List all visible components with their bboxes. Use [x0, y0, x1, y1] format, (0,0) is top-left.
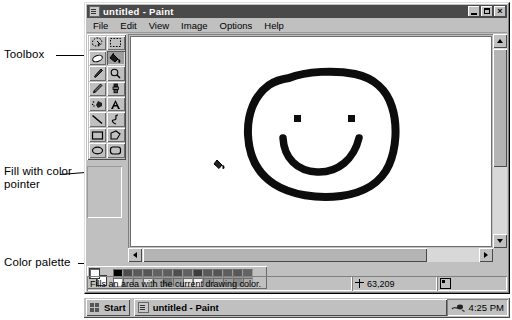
status-hint: Fills an area with the current drawing c… — [87, 276, 352, 291]
ellipse-icon — [91, 145, 104, 156]
annotation-color-palette: Color palette — [4, 256, 71, 269]
menu-view[interactable]: View — [143, 20, 175, 32]
chevron-down-icon — [497, 239, 503, 243]
scroll-left-button[interactable] — [128, 248, 142, 262]
tray-clock[interactable]: 4:25 PM — [469, 302, 504, 313]
crosshair-icon — [355, 279, 364, 288]
paint-window: untitled - Paint × File Edit View Image … — [84, 2, 510, 294]
status-coordinates: 63,209 — [352, 276, 437, 291]
chevron-up-icon — [497, 39, 503, 43]
rectangle-tool[interactable] — [89, 128, 107, 142]
system-tray: 4:25 PM — [447, 299, 508, 316]
start-label: Start — [104, 302, 126, 313]
paint-app-icon — [89, 6, 100, 17]
magnifier-icon — [109, 68, 122, 79]
taskbar-item-paint[interactable]: untitled - Paint — [134, 299, 447, 316]
menu-bar: File Edit View Image Options Help — [87, 19, 507, 33]
polygon-icon — [109, 130, 122, 141]
ellipse-tool[interactable] — [89, 143, 107, 157]
canvas-vertical-scrollbar[interactable] — [493, 34, 507, 248]
selection-size-icon — [440, 278, 451, 289]
rectangle-select-tool[interactable] — [107, 36, 125, 50]
text-a-icon — [109, 99, 122, 110]
menu-options[interactable]: Options — [214, 20, 259, 32]
annotation-fill-pointer: Fill with color pointer — [4, 165, 72, 191]
windows-logo-icon — [90, 303, 101, 313]
pencil-tool[interactable] — [89, 82, 107, 96]
chevron-left-icon — [133, 252, 137, 258]
status-bar: Fills an area with the current drawing c… — [87, 276, 507, 291]
tool-options-panel[interactable] — [87, 166, 122, 218]
menu-file[interactable]: File — [87, 20, 114, 32]
window-controls: × — [468, 6, 506, 17]
drawing-canvas[interactable] — [130, 36, 492, 247]
chevron-right-icon — [484, 252, 488, 258]
annotation-toolbox: Toolbox — [4, 48, 44, 61]
title-bar[interactable]: untitled - Paint × — [87, 5, 507, 18]
pencil-icon — [91, 83, 104, 94]
toolbox — [87, 34, 126, 224]
window-title: untitled - Paint — [103, 6, 468, 17]
eraser-tool[interactable] — [89, 51, 107, 65]
menu-edit[interactable]: Edit — [114, 20, 142, 32]
rounded-rectangle-icon — [109, 145, 122, 156]
text-tool[interactable] — [107, 97, 125, 111]
rectangle-icon — [91, 130, 104, 141]
menu-image[interactable]: Image — [175, 20, 213, 32]
status-size — [437, 276, 507, 291]
pick-color-tool[interactable] — [89, 66, 107, 80]
canvas-area — [128, 34, 507, 262]
horizontal-scroll-thumb[interactable] — [143, 248, 427, 262]
paint-bucket-icon — [109, 53, 122, 64]
taskbar: Start untitled - Paint 4:25 PM — [84, 297, 510, 318]
airbrush-tool[interactable] — [89, 97, 107, 111]
hand-drawn-smiley-face — [131, 37, 491, 237]
close-button[interactable]: × — [494, 6, 506, 17]
free-form-select-icon — [91, 37, 104, 48]
maximize-button[interactable] — [481, 6, 493, 17]
scroll-right-button[interactable] — [479, 248, 493, 262]
free-form-select-tool[interactable] — [89, 36, 107, 50]
fill-with-color-tool[interactable] — [107, 51, 125, 65]
tray-printer-icon[interactable] — [451, 302, 465, 313]
paint-taskbar-icon — [138, 302, 149, 313]
tool-grid — [87, 34, 126, 160]
airbrush-icon — [91, 99, 104, 110]
taskbar-item-label: untitled - Paint — [153, 302, 219, 313]
brush-tool[interactable] — [107, 82, 125, 96]
rounded-rectangle-tool[interactable] — [107, 143, 125, 157]
rectangle-select-icon — [109, 37, 122, 48]
brush-icon — [109, 83, 122, 94]
line-icon — [91, 114, 104, 125]
annotation-leader-toolbox — [56, 55, 84, 56]
coordinates-value: 63,209 — [367, 279, 395, 289]
scroll-up-button[interactable] — [493, 34, 507, 48]
line-tool[interactable] — [89, 112, 107, 126]
menu-help[interactable]: Help — [258, 20, 290, 32]
eyedropper-icon — [91, 68, 104, 79]
start-button[interactable]: Start — [86, 299, 130, 316]
curve-icon — [109, 114, 122, 125]
curve-tool[interactable] — [107, 112, 125, 126]
canvas-horizontal-scrollbar[interactable] — [128, 248, 493, 262]
eraser-icon — [91, 53, 104, 64]
minimize-button[interactable] — [468, 6, 480, 17]
magnifier-tool[interactable] — [107, 66, 125, 80]
scrollbar-corner — [493, 248, 507, 262]
vertical-scroll-thumb[interactable] — [493, 49, 507, 167]
paint-bucket-cursor — [213, 159, 226, 171]
polygon-tool[interactable] — [107, 128, 125, 142]
scroll-down-button[interactable] — [493, 234, 507, 248]
